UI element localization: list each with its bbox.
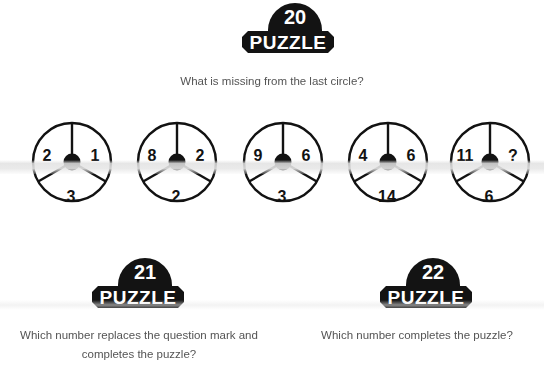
badge-number: 22: [406, 261, 460, 284]
circle-4-left-value: 4: [348, 147, 378, 165]
circle-1-left-value: 2: [32, 147, 62, 165]
puzzle-badge-21: 21 PUZZLE: [92, 258, 184, 308]
badge-word: PUZZLE: [242, 32, 334, 53]
circle-3-right-value: 6: [291, 147, 321, 165]
badge-number: 20: [268, 6, 322, 29]
badge-word: PUZZLE: [380, 287, 472, 308]
circle-3-left-value: 9: [243, 147, 273, 165]
puzzle-badge-20: 20 PUZZLE: [242, 3, 334, 53]
circle-diagram-3: 9 6 3: [227, 105, 339, 220]
circle-3-bottom-value: 3: [267, 188, 297, 206]
circle-2-left-value: 8: [137, 147, 167, 165]
badge-word: PUZZLE: [92, 287, 184, 308]
circle-5-question-mark: ?: [498, 147, 528, 165]
circle-diagram-4: 4 6 14: [332, 105, 444, 220]
circle-1-bottom-value: 3: [56, 188, 86, 206]
circle-diagram-5: 11 ? 6: [434, 105, 544, 220]
circle-diagram-row: 2 1 3 8 2 2 9 6: [0, 105, 544, 220]
circle-diagram-1: 2 1 3: [16, 105, 128, 220]
circle-diagram-2: 8 2 2: [121, 105, 233, 220]
puzzle-20-question: What is missing from the last circle?: [122, 72, 422, 90]
circle-5-left-value: 11: [450, 147, 480, 165]
puzzle-badge-22: 22 PUZZLE: [380, 258, 472, 308]
circle-2-right-value: 2: [185, 147, 215, 165]
circle-4-right-value: 6: [396, 147, 426, 165]
circle-2-bottom-value: 2: [161, 188, 191, 206]
puzzle-21-question: Which number replaces the question mark …: [0, 326, 278, 364]
badge-number: 21: [118, 261, 172, 284]
circle-5-bottom-value: 6: [474, 188, 504, 206]
puzzle-worksheet: 20 PUZZLE What is missing from the last …: [0, 0, 544, 366]
puzzle-22-question: Which number completes the puzzle?: [290, 326, 544, 344]
circle-4-bottom-value: 14: [372, 188, 402, 206]
circle-1-right-value: 1: [80, 147, 110, 165]
